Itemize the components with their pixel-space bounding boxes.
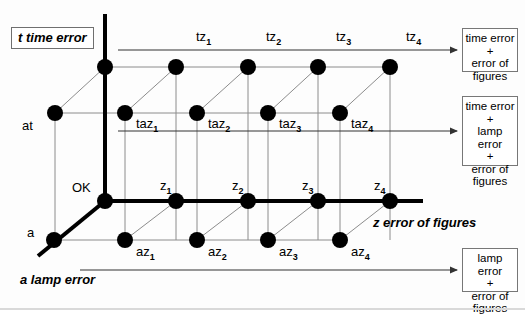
result-line: + [465, 113, 515, 126]
axis-label-z: z error of figures [373, 215, 476, 230]
node-label-taz-2-sub: 2 [225, 124, 230, 134]
node-label-tz-2: tz2 [266, 29, 281, 47]
node-label-az-3: az3 [279, 244, 298, 262]
node-label-taz-1-text: taz [136, 116, 153, 131]
node-label-taz-4-sub: 4 [368, 124, 373, 134]
node-label-z-2-sub: 2 [239, 186, 244, 196]
node-label-tz-4-sub: 4 [416, 37, 421, 47]
axis-origin-label-a: a [27, 225, 34, 240]
node-label-z-1: z1 [160, 178, 172, 196]
node-label-az-2-sub: 2 [222, 252, 227, 262]
node-label-tz-4: tz4 [406, 29, 421, 47]
bottom-divider [0, 308, 525, 310]
node-label-az-2-text: az [208, 244, 222, 259]
axis-label-a: a lamp error [20, 272, 95, 287]
node-label-tz-4-text: tz [406, 29, 416, 44]
node-label-z-3-sub: 3 [309, 186, 314, 196]
result-box-time-error: time error + error of figures [462, 28, 518, 72]
node-label-taz-2: taz2 [208, 116, 230, 134]
node-label-az-1: az1 [136, 244, 155, 262]
axis-label-t: t time error [11, 27, 94, 49]
result-line: time error [465, 100, 515, 113]
node-label-tz-2-text: tz [266, 29, 276, 44]
axis-a-diagonal [38, 201, 105, 256]
node-label-taz-3-sub: 3 [296, 124, 301, 134]
node-label-az-1-text: az [136, 244, 150, 259]
node-label-taz-1-sub: 1 [153, 124, 158, 134]
lattice-nodes [46, 59, 398, 248]
node-label-tz-1: tz1 [196, 29, 211, 47]
result-line: + [465, 277, 515, 290]
node-label-z-3: z3 [302, 178, 314, 196]
node-label-taz-1: taz1 [136, 116, 158, 134]
node-label-taz-4: taz4 [351, 116, 373, 134]
node-label-z-1-sub: 1 [167, 186, 172, 196]
node-label-az-2: az2 [208, 244, 227, 262]
result-line: lamp error [465, 125, 515, 150]
origin-label-ok: OK [72, 180, 91, 195]
result-line: time error [465, 32, 515, 45]
node-label-taz-3: taz3 [279, 116, 301, 134]
node-label-z-4: z4 [374, 178, 386, 196]
node-label-tz-2-sub: 2 [276, 37, 281, 47]
node-label-az-1-sub: 1 [150, 252, 155, 262]
result-line: + [465, 150, 515, 163]
node-label-tz-3-sub: 3 [346, 37, 351, 47]
result-box-lamp-error: lamp error + error of figures [462, 248, 518, 292]
result-line: error of figures [465, 290, 515, 315]
node-label-az-3-text: az [279, 244, 293, 259]
result-box-time-lamp-error: time error + lamp error + error of figur… [462, 96, 518, 166]
node-label-az-4-sub: 4 [365, 252, 370, 262]
node-label-z-4-sub: 4 [381, 186, 386, 196]
node-label-taz-2-text: taz [208, 116, 225, 131]
result-line: + [465, 45, 515, 58]
node-label-tz-1-text: tz [196, 29, 206, 44]
node-label-z-2: z2 [232, 178, 244, 196]
node-label-taz-3-text: taz [279, 116, 296, 131]
node-label-tz-3-text: tz [336, 29, 346, 44]
node-label-az-3-sub: 3 [293, 252, 298, 262]
result-line: error of figures [465, 163, 515, 188]
result-line: lamp error [465, 252, 515, 277]
node-label-taz-4-text: taz [351, 116, 368, 131]
result-line: error of figures [465, 57, 515, 82]
axis-origin-label-at: at [22, 118, 33, 133]
node-label-az-4: az4 [351, 244, 370, 262]
node-label-tz-3: tz3 [336, 29, 351, 47]
node-label-tz-1-sub: 1 [206, 37, 211, 47]
node-label-az-4-text: az [351, 244, 365, 259]
